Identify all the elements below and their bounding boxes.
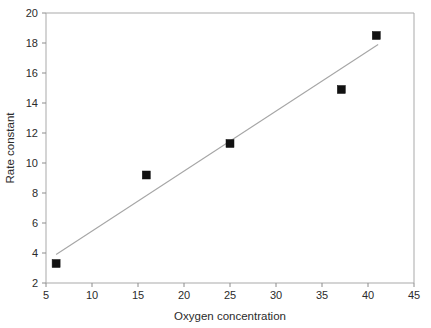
x-axis-title: Oxygen concentration bbox=[174, 310, 286, 322]
data-point-marker bbox=[52, 260, 60, 268]
x-tick-label: 45 bbox=[408, 289, 420, 301]
y-tick-label: 6 bbox=[32, 217, 38, 229]
y-tick-label: 14 bbox=[26, 97, 38, 109]
x-tick-label: 35 bbox=[316, 289, 328, 301]
y-axis-title: Rate constant bbox=[4, 112, 16, 184]
trend-line-segment bbox=[56, 45, 378, 255]
y-tick-label: 4 bbox=[32, 247, 38, 259]
x-tick-label: 10 bbox=[86, 289, 98, 301]
data-point-marker bbox=[142, 171, 150, 179]
plot-area: 51015202530354045 2468101214161820 Oxyge… bbox=[0, 0, 431, 328]
y-tick-label: 10 bbox=[26, 157, 38, 169]
x-tick-label: 5 bbox=[43, 289, 49, 301]
x-tick-label: 20 bbox=[178, 289, 190, 301]
y-tick-label: 16 bbox=[26, 67, 38, 79]
data-point-marker bbox=[372, 32, 380, 40]
data-point-marker bbox=[337, 86, 345, 94]
scatter-chart: 51015202530354045 2468101214161820 Oxyge… bbox=[0, 0, 431, 328]
y-tick-label: 2 bbox=[32, 277, 38, 289]
trend-line bbox=[56, 45, 378, 255]
x-tick-label: 25 bbox=[224, 289, 236, 301]
y-axis-ticks: 2468101214161820 bbox=[26, 7, 46, 289]
x-tick-label: 30 bbox=[270, 289, 282, 301]
plot-frame bbox=[46, 13, 414, 283]
y-tick-label: 20 bbox=[26, 7, 38, 19]
x-tick-label: 15 bbox=[132, 289, 144, 301]
x-tick-label: 40 bbox=[362, 289, 374, 301]
y-tick-label: 8 bbox=[32, 187, 38, 199]
y-tick-label: 12 bbox=[26, 127, 38, 139]
x-axis-ticks: 51015202530354045 bbox=[43, 283, 420, 301]
y-tick-label: 18 bbox=[26, 37, 38, 49]
data-point-marker bbox=[226, 140, 234, 148]
